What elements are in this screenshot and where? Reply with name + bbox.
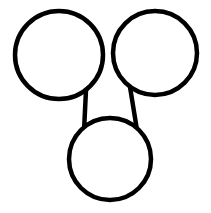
diagram-canvas xyxy=(0,0,211,213)
node-link-diagram xyxy=(0,0,211,213)
bottom-circle[interactable] xyxy=(69,118,151,200)
top-left-circle[interactable] xyxy=(15,11,103,99)
top-right-circle[interactable] xyxy=(113,11,197,95)
